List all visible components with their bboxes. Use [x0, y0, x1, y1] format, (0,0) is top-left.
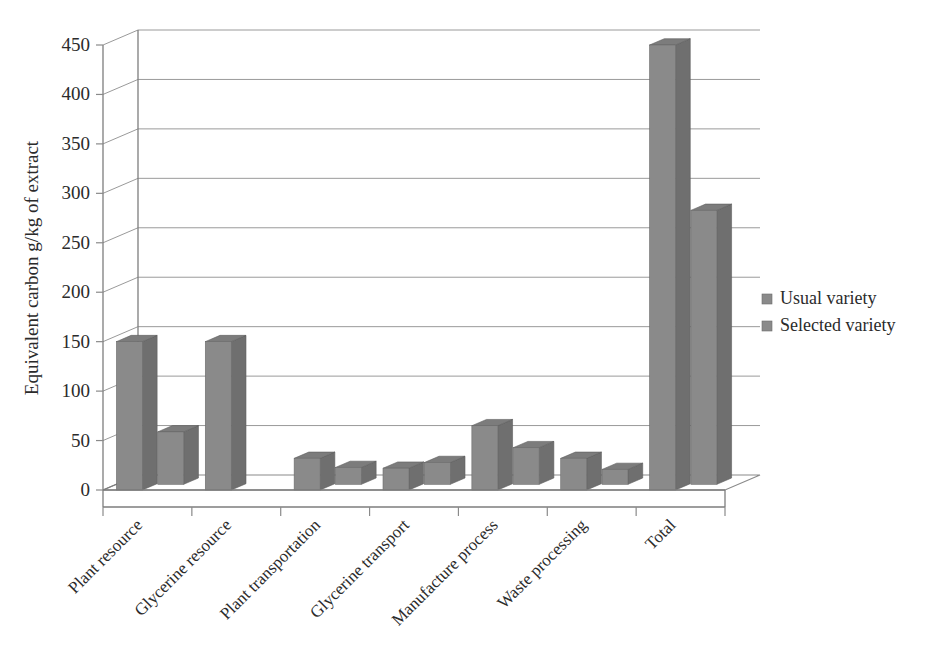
chart-canvas: 050100150200250300350400450 Plant resour…: [0, 0, 948, 664]
bar-front-face: [205, 342, 231, 490]
legend: Usual varietySelected variety: [762, 288, 895, 335]
bar: [513, 441, 554, 484]
bar-side-face: [717, 204, 732, 484]
bar-front-face: [294, 458, 320, 490]
bar-front-face: [424, 463, 450, 485]
bar-front-face: [513, 448, 539, 485]
legend-label: Selected variety: [780, 315, 895, 335]
bar-front-face: [158, 432, 184, 484]
y-tick-label: 100: [62, 380, 91, 401]
bar-side-face: [320, 452, 335, 490]
bar-front-face: [691, 210, 717, 484]
y-tick-label: 250: [62, 232, 91, 253]
y-tick-group: 050100150200250300350400450: [62, 34, 104, 500]
bar: [205, 335, 246, 490]
x-tick-group: [103, 507, 725, 516]
x-axis-label: Glycerine resource: [131, 515, 236, 620]
y-tick-label: 350: [62, 133, 91, 154]
bar: [472, 419, 513, 490]
x-axis-label: Plant resource: [64, 515, 146, 597]
bar-front-face: [472, 426, 498, 490]
bar-front-face: [602, 469, 628, 484]
bar-front-face: [650, 45, 676, 490]
y-tick-label: 400: [62, 83, 91, 104]
bar-side-face: [231, 335, 246, 490]
legend-swatch: [762, 294, 772, 304]
legend-swatch: [762, 321, 772, 331]
bar-side-face: [587, 452, 602, 490]
bar: [294, 452, 335, 490]
bar: [335, 461, 376, 484]
bar-side-face: [676, 39, 691, 490]
bar-front-face: [383, 468, 409, 490]
bar: [424, 456, 465, 484]
legend-label: Usual variety: [780, 288, 876, 308]
bar: [383, 462, 424, 490]
y-tick-label: 150: [62, 331, 91, 352]
bar-side-face: [539, 441, 554, 484]
x-axis-labels: Plant resourceGlycerine resourcePlant tr…: [64, 515, 679, 629]
bar: [650, 39, 691, 490]
y-tick-label: 300: [62, 182, 91, 203]
bars-group: [116, 39, 731, 490]
bar-side-face: [184, 426, 199, 485]
x-axis: [103, 490, 725, 507]
y-tick-label: 450: [62, 34, 91, 55]
bar: [116, 335, 157, 490]
bar-side-face: [142, 335, 157, 490]
bar: [158, 426, 199, 485]
y-tick-label: 200: [62, 281, 91, 302]
bar-front-face: [116, 342, 142, 490]
bar-front-face: [561, 458, 587, 490]
bar-chart: 050100150200250300350400450 Plant resour…: [0, 0, 948, 664]
bar: [561, 452, 602, 490]
bar-front-face: [335, 467, 361, 484]
y-tick-label: 50: [71, 430, 90, 451]
bar: [691, 204, 732, 484]
x-axis-label: Waste processing: [494, 515, 591, 612]
y-tick-label: 0: [81, 479, 91, 500]
bar-side-face: [498, 419, 513, 490]
y-axis-title: Equivalent carbon g/kg of extract: [21, 140, 42, 395]
x-axis-label: Total: [641, 515, 679, 553]
